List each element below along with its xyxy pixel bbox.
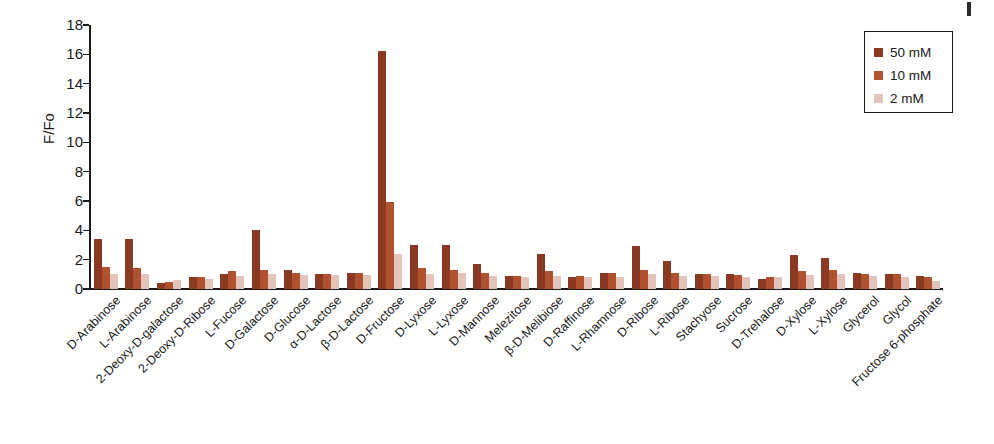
legend: 50 mM 10 mM 2 mM — [864, 31, 953, 113]
x-axis-category-label: L-Arabinose — [0, 294, 155, 444]
legend-item[interactable]: 50 mM — [874, 41, 952, 64]
legend-item[interactable]: 2 mM — [874, 87, 952, 110]
legend-swatch-2mm — [874, 94, 883, 103]
chart-figure: F/Fo 024681012141618 D-ArabinoseL-Arabin… — [0, 0, 994, 444]
legend-label-50mm: 50 mM — [890, 45, 931, 60]
legend-label-2mm: 2 mM — [890, 91, 924, 106]
legend-label-10mm: 10 mM — [890, 68, 931, 83]
legend-item[interactable]: 10 mM — [874, 64, 952, 87]
legend-swatch-50mm — [874, 48, 883, 57]
legend-swatch-10mm — [874, 71, 883, 80]
x-axis-labels: D-ArabinoseL-Arabinose2-Deoxy-D-galactos… — [0, 0, 994, 444]
